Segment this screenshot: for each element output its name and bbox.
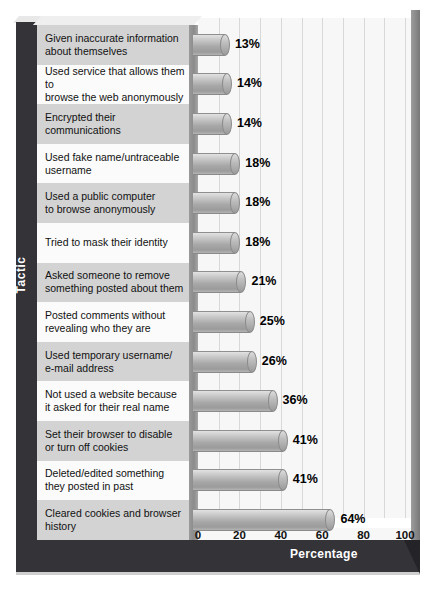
category-label-line1: Used temporary username/ bbox=[45, 349, 172, 362]
category-label-text: Cleared cookies and browserhistory bbox=[45, 507, 181, 533]
label-column-side-wall bbox=[189, 25, 198, 540]
x-tick-label-40: 40 bbox=[274, 529, 287, 541]
category-label: Cleared cookies and browserhistory bbox=[37, 500, 189, 540]
category-label-text: Set their browser to disableor turn off … bbox=[45, 428, 172, 454]
gridline-90 bbox=[384, 18, 385, 520]
frame-bottom-bevel bbox=[16, 572, 420, 575]
category-label-line1: Used fake name/untraceable bbox=[45, 151, 179, 164]
category-label-line2: they posted in past bbox=[45, 480, 164, 493]
plot-top-edge bbox=[194, 10, 422, 18]
plot-background bbox=[198, 18, 411, 540]
category-label-text: Used temporary username/e-mail address bbox=[45, 349, 172, 375]
category-label-line1: Tried to mask their identity bbox=[45, 236, 168, 249]
category-label-text: Asked someone to removesomething posted … bbox=[45, 269, 183, 295]
category-label-line1: Given inaccurate information bbox=[45, 32, 179, 45]
y-axis-title: Tactic bbox=[14, 230, 28, 320]
x-tick-label-100: 100 bbox=[395, 529, 414, 541]
category-label: Posted comments withoutrevealing who the… bbox=[37, 302, 189, 342]
category-label-line1: Used service that allows them to bbox=[45, 65, 185, 91]
category-label-text: Used service that allows them tobrowse t… bbox=[45, 65, 185, 104]
x-tick-label-80: 80 bbox=[357, 529, 370, 541]
category-label-text: Posted comments withoutrevealing who the… bbox=[45, 309, 165, 335]
gridline-80 bbox=[364, 18, 365, 520]
plot-floor bbox=[198, 518, 411, 528]
category-label: Used fake name/untraceableusername bbox=[37, 144, 189, 184]
category-label-text: Deleted/edited somethingthey posted in p… bbox=[45, 467, 164, 493]
category-label-line1: Deleted/edited something bbox=[45, 467, 164, 480]
category-label: Encrypted their communications bbox=[37, 104, 189, 144]
gridline-60 bbox=[322, 18, 323, 520]
category-label-line2: it asked for their real name bbox=[45, 401, 177, 414]
x-tick-label-60: 60 bbox=[316, 529, 329, 541]
category-label-line1: Not used a website because bbox=[45, 388, 177, 401]
category-label: Given inaccurate informationabout themse… bbox=[37, 25, 189, 65]
category-label-line2: browse the web anonymously bbox=[45, 91, 185, 104]
category-label: Used temporary username/e-mail address bbox=[37, 342, 189, 382]
category-label-line2: something posted about them bbox=[45, 282, 183, 295]
category-label-line1: Cleared cookies and browser bbox=[45, 507, 181, 520]
gridline-10 bbox=[219, 18, 220, 520]
category-label-line1: Encrypted their communications bbox=[45, 111, 185, 137]
category-label: Set their browser to disableor turn off … bbox=[37, 421, 189, 461]
category-label-line1: Posted comments without bbox=[45, 309, 165, 322]
gridline-40 bbox=[281, 18, 282, 520]
category-label: Deleted/edited somethingthey posted in p… bbox=[37, 461, 189, 501]
category-label-line1: Used a public computer bbox=[45, 190, 155, 203]
category-label-line1: Set their browser to disable bbox=[45, 428, 172, 441]
category-label-text: Used a public computerto browse anonymou… bbox=[45, 190, 155, 216]
category-label: Asked someone to removesomething posted … bbox=[37, 263, 189, 303]
plot-right-edge bbox=[411, 10, 420, 540]
gridline-30 bbox=[260, 18, 261, 520]
bar-chart-figure: Tactic Percentage Given inaccurate infor… bbox=[0, 0, 436, 594]
x-tick-label-20: 20 bbox=[233, 529, 246, 541]
category-label-line2: about themselves bbox=[45, 45, 179, 58]
category-label-text: Given inaccurate informationabout themse… bbox=[45, 32, 179, 58]
category-label-line2: username bbox=[45, 164, 179, 177]
category-label: Used a public computerto browse anonymou… bbox=[37, 183, 189, 223]
x-tick-label-0: 0 bbox=[195, 529, 201, 541]
category-label: Tried to mask their identity bbox=[37, 223, 189, 263]
category-label-line2: or turn off cookies bbox=[45, 441, 172, 454]
x-axis-title: Percentage bbox=[290, 547, 358, 561]
gridline-70 bbox=[343, 18, 344, 520]
category-label-text: Used fake name/untraceableusername bbox=[45, 151, 179, 177]
gridline-20 bbox=[239, 18, 240, 520]
category-label-line1: Asked someone to remove bbox=[45, 269, 183, 282]
frame-bottom-band bbox=[16, 540, 420, 574]
category-label-line2: history bbox=[45, 520, 181, 533]
label-column-top-wall bbox=[33, 16, 202, 25]
category-label: Not used a website becauseit asked for t… bbox=[37, 381, 189, 421]
gridline-100 bbox=[405, 18, 406, 520]
frame-corner-wedge bbox=[404, 540, 420, 574]
category-label-line2: e-mail address bbox=[45, 362, 172, 375]
category-label-line2: revealing who they are bbox=[45, 322, 165, 335]
category-label-line2: to browse anonymously bbox=[45, 203, 155, 216]
category-label-text: Encrypted their communications bbox=[45, 111, 185, 137]
category-label: Used service that allows them tobrowse t… bbox=[37, 65, 189, 105]
category-label-column: Given inaccurate informationabout themse… bbox=[37, 25, 189, 540]
gridline-50 bbox=[302, 18, 303, 520]
category-label-text: Tried to mask their identity bbox=[45, 236, 168, 249]
category-label-text: Not used a website becauseit asked for t… bbox=[45, 388, 177, 414]
